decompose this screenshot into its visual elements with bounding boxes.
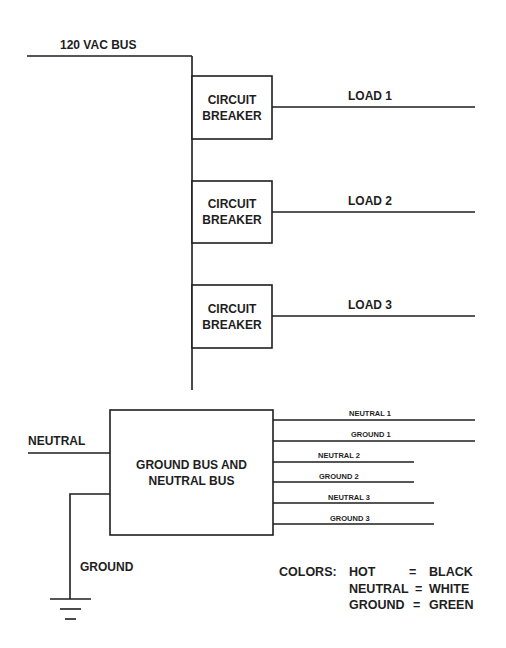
output-label-ground-1: GROUND 1 bbox=[351, 430, 391, 439]
circuit-breaker-1: CIRCUIT BREAKER bbox=[192, 76, 272, 139]
bus-label: 120 VAC BUS bbox=[60, 38, 136, 52]
neutral-label: NEUTRAL bbox=[28, 434, 85, 448]
legend-row: COLORS: HOT = BLACK bbox=[279, 564, 473, 581]
breaker-text: BREAKER bbox=[202, 212, 261, 228]
breaker-text: CIRCUIT bbox=[208, 196, 257, 212]
legend-eq: = bbox=[409, 564, 416, 581]
color-legend: COLORS: HOT = BLACK NEUTRAL = WHITE GROU… bbox=[279, 564, 473, 614]
ground-label: GROUND bbox=[80, 560, 133, 574]
output-label-ground-3: GROUND 3 bbox=[330, 514, 370, 523]
ground-neutral-bus: GROUND BUS AND NEUTRAL BUS bbox=[110, 410, 273, 535]
output-label-ground-2: GROUND 2 bbox=[319, 472, 359, 481]
legend-color: GREEN bbox=[429, 597, 473, 614]
bus-box-text: GROUND BUS AND bbox=[136, 457, 247, 473]
legend-eq: = bbox=[415, 581, 422, 598]
ground-wire bbox=[70, 494, 110, 599]
legend-color: BLACK bbox=[429, 564, 473, 581]
bus-box-text: NEUTRAL BUS bbox=[149, 473, 235, 489]
breaker-text: BREAKER bbox=[202, 317, 261, 333]
output-label-neutral-3: NEUTRAL 3 bbox=[328, 493, 370, 502]
legend-spacer bbox=[279, 581, 349, 598]
circuit-breaker-2: CIRCUIT BREAKER bbox=[192, 181, 272, 243]
legend-color: WHITE bbox=[429, 581, 469, 598]
legend-row: NEUTRAL = WHITE bbox=[279, 581, 473, 598]
breaker-text: CIRCUIT bbox=[208, 92, 257, 108]
output-label-neutral-2: NEUTRAL 2 bbox=[318, 451, 360, 460]
legend-eq: = bbox=[413, 597, 420, 614]
load-1-label: LOAD 1 bbox=[348, 89, 392, 103]
legend-wire-name: GROUND bbox=[349, 597, 413, 614]
legend-wire: NEUTRAL = bbox=[349, 581, 429, 598]
legend-wire: HOT = bbox=[349, 564, 429, 581]
output-label-neutral-1: NEUTRAL 1 bbox=[349, 409, 391, 418]
circuit-breaker-3: CIRCUIT BREAKER bbox=[192, 285, 272, 348]
legend-wire-name: HOT bbox=[349, 564, 409, 581]
load-2-label: LOAD 2 bbox=[348, 194, 392, 208]
load-3-label: LOAD 3 bbox=[348, 298, 392, 312]
legend-wire-name: NEUTRAL bbox=[349, 581, 415, 598]
breaker-text: BREAKER bbox=[202, 108, 261, 124]
legend-row: GROUND = GREEN bbox=[279, 597, 473, 614]
breaker-text: CIRCUIT bbox=[208, 301, 257, 317]
legend-title: COLORS: bbox=[279, 564, 349, 581]
legend-spacer bbox=[279, 597, 349, 614]
legend-wire: GROUND = bbox=[349, 597, 429, 614]
